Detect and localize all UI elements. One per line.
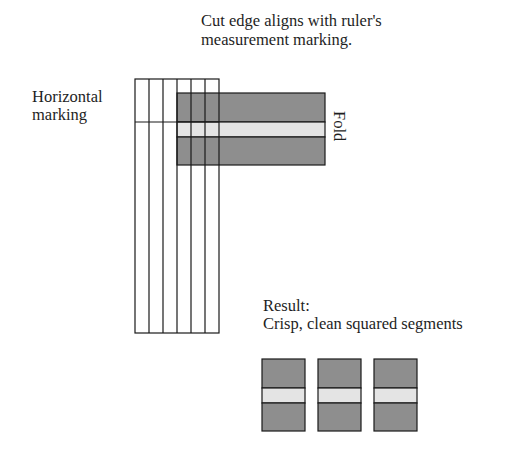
result-segments	[262, 359, 417, 431]
strip-top-section	[177, 93, 325, 122]
fold-label: Fold	[329, 111, 349, 141]
strip-fold-band	[177, 122, 325, 137]
result-segment	[318, 359, 361, 431]
result-segment	[374, 359, 417, 431]
result-segment	[262, 359, 305, 431]
result-label-line1: Result:	[263, 297, 310, 315]
diagram-canvas	[0, 0, 530, 464]
cut-edge-label-line1: Cut edge aligns with ruler's	[201, 12, 382, 30]
result-label-line2: Crisp, clean squared segments	[263, 315, 463, 333]
horizontal-marking-label-line1: Horizontal	[32, 88, 103, 106]
cut-edge-label-line2: measurement marking.	[201, 31, 352, 49]
strip-bottom-section	[177, 137, 325, 165]
fabric-strip	[177, 93, 325, 165]
horizontal-marking-label-line2: marking	[32, 106, 87, 124]
